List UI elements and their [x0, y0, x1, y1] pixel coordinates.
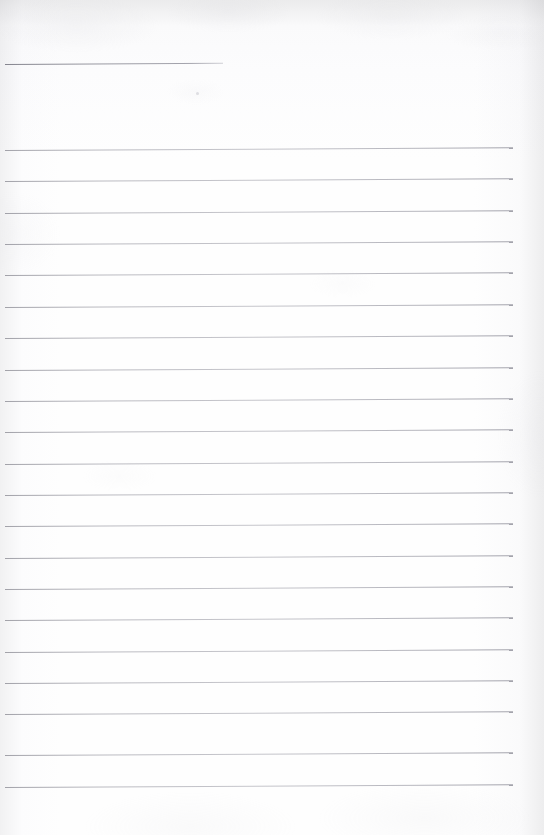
body-rule [5, 430, 513, 434]
body-rule [5, 147, 513, 151]
body-rule [5, 273, 513, 277]
body-rule [5, 586, 513, 590]
body-rule [5, 398, 513, 402]
body-rule [5, 461, 513, 465]
body-rule [5, 492, 513, 496]
body-rule [5, 179, 513, 183]
body-rule [5, 304, 513, 308]
body-rule [5, 752, 513, 756]
title-rule [5, 63, 223, 65]
body-rule [5, 524, 513, 528]
body-rule [5, 210, 513, 214]
paper-speck [196, 92, 199, 95]
body-rule [5, 784, 513, 788]
body-rule [5, 555, 513, 559]
body-rule [5, 649, 513, 653]
body-rule [5, 712, 513, 716]
body-rule [5, 335, 513, 339]
ruled-lines-group [0, 0, 544, 835]
body-rule [5, 618, 513, 622]
body-rule [5, 241, 513, 245]
body-rule [5, 367, 513, 371]
body-rule [5, 680, 513, 684]
notepaper-page [0, 0, 544, 835]
